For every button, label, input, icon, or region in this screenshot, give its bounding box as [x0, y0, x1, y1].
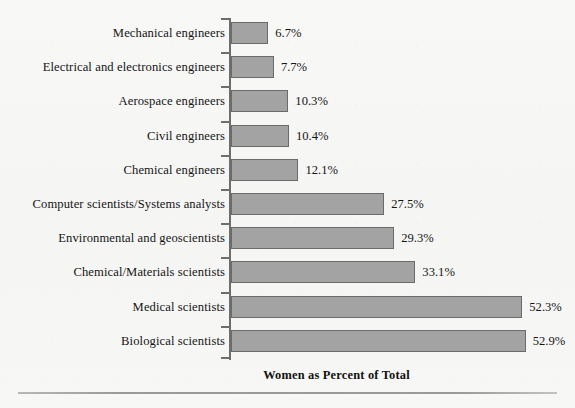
bar-row: Biological scientists52.9% — [0, 330, 575, 352]
axis-tick — [221, 18, 230, 20]
axis-tick — [221, 86, 230, 88]
bar-value-label: 33.1% — [422, 265, 455, 280]
bar-value-label: 27.5% — [391, 197, 424, 212]
axis-tick — [221, 223, 230, 225]
bar-value-label: 10.3% — [295, 94, 328, 109]
bar-value-label: 6.7% — [275, 26, 301, 41]
category-label: Chemical engineers — [124, 162, 225, 177]
category-label: Aerospace engineers — [119, 94, 225, 109]
category-label: Chemical/Materials scientists — [73, 265, 225, 280]
bar-row: Aerospace engineers10.3% — [0, 90, 575, 112]
axis-tick — [221, 326, 230, 328]
chart-page: Mechanical engineers6.7%Electrical and e… — [0, 0, 575, 408]
bar-row: Environmental and geoscientists29.3% — [0, 227, 575, 249]
axis-tick — [221, 257, 230, 259]
category-label: Computer scientists/Systems analysts — [33, 197, 226, 212]
bar — [231, 90, 288, 112]
bar-value-label: 12.1% — [305, 162, 338, 177]
bar — [231, 261, 415, 283]
axis-tick — [221, 121, 230, 123]
axis-tick — [221, 52, 230, 54]
bar — [231, 193, 384, 215]
bar-row: Chemical/Materials scientists33.1% — [0, 261, 575, 283]
category-label: Electrical and electronics engineers — [43, 60, 225, 75]
footer-rule — [18, 392, 557, 394]
bar-chart-plot-area: Mechanical engineers6.7%Electrical and e… — [0, 0, 575, 372]
category-label: Biological scientists — [121, 333, 225, 348]
bar-value-label: 52.3% — [529, 299, 562, 314]
axis-tick — [221, 155, 230, 157]
bar — [231, 125, 289, 147]
bar — [231, 56, 274, 78]
bar — [231, 159, 298, 181]
bar-value-label: 52.9% — [533, 333, 566, 348]
bar — [231, 330, 526, 352]
axis-tick — [221, 189, 230, 191]
bar-value-label: 7.7% — [281, 60, 307, 75]
bar-row: Electrical and electronics engineers7.7% — [0, 56, 575, 78]
bar — [231, 227, 394, 249]
axis-tick — [221, 357, 230, 359]
x-axis-title: Women as Percent of Total — [0, 368, 575, 383]
bar — [231, 22, 268, 44]
bar — [231, 296, 522, 318]
bar-value-label: 29.3% — [401, 231, 434, 246]
bar-row: Mechanical engineers6.7% — [0, 22, 575, 44]
category-label: Civil engineers — [147, 128, 225, 143]
bar-value-label: 10.4% — [296, 128, 329, 143]
category-label: Mechanical engineers — [113, 26, 225, 41]
bar-row: Computer scientists/Systems analysts27.5… — [0, 193, 575, 215]
bar-row: Civil engineers10.4% — [0, 125, 575, 147]
bar-row: Chemical engineers12.1% — [0, 159, 575, 181]
category-label: Environmental and geoscientists — [58, 231, 225, 246]
bar-row: Medical scientists52.3% — [0, 296, 575, 318]
category-label: Medical scientists — [133, 299, 225, 314]
axis-tick — [221, 292, 230, 294]
